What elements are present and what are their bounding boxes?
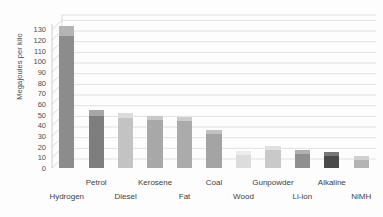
y-axis-tick-70: 70: [38, 89, 46, 98]
bar-gunpowder[interactable]: [265, 146, 280, 168]
category-label-kerosene: Kerosene: [138, 178, 172, 187]
bar-body: [236, 151, 251, 168]
y-axis-tick-10: 10: [38, 153, 46, 162]
bar-body: [89, 110, 104, 168]
category-label-li-ion: Li-ion: [293, 192, 313, 201]
category-label-alkaline: Alkaline: [318, 178, 346, 187]
bar-nimh[interactable]: [354, 156, 369, 168]
bar-top-cap: [89, 110, 104, 115]
bar-fat[interactable]: [177, 117, 192, 168]
bar-top-cap: [177, 117, 192, 122]
bar-petrol[interactable]: [89, 110, 104, 168]
y-axis-tick-60: 60: [38, 100, 46, 109]
bar-kerosene[interactable]: [147, 116, 162, 168]
bar-series: [52, 24, 376, 168]
y-axis-tick-0: 0: [42, 164, 46, 173]
y-axis-tick-130: 130: [33, 25, 46, 34]
category-label-hydrogen: Hydrogen: [49, 192, 84, 201]
bar-body: [265, 146, 280, 168]
y-axis-tick-30: 30: [38, 132, 46, 141]
y-axis-tick-100: 100: [33, 57, 46, 66]
y-axis-tick-50: 50: [38, 110, 46, 119]
y-axis-tick-80: 80: [38, 78, 46, 87]
bar-body: [118, 113, 133, 168]
bar-body: [59, 26, 74, 168]
bar-li-ion[interactable]: [295, 150, 310, 168]
bar-top-cap: [265, 146, 280, 150]
category-label-diesel: Diesel: [115, 192, 137, 201]
bar-top-cap: [295, 150, 310, 154]
x-axis-category-labels: HydrogenPetrolDieselKeroseneFatCoalWoodG…: [52, 168, 376, 214]
bar-top-cap: [324, 152, 339, 156]
y-axis-tick-120: 120: [33, 36, 46, 45]
bar-top-cap: [59, 26, 74, 36]
bar-top-cap: [118, 113, 133, 118]
y-axis-tick-90: 90: [38, 68, 46, 77]
category-label-nimh: NiMH: [351, 192, 371, 201]
category-label-wood: Wood: [233, 192, 254, 201]
bar-alkaline[interactable]: [324, 152, 339, 168]
bar-body: [324, 152, 339, 168]
y-axis-tick-labels: 0102030405060708090100110120130: [22, 24, 46, 168]
category-label-coal: Coal: [206, 178, 222, 187]
bar-body: [206, 130, 221, 168]
bar-body: [295, 150, 310, 168]
y-axis-tick-20: 20: [38, 142, 46, 151]
bar-top-cap: [354, 156, 369, 160]
bar-diesel[interactable]: [118, 113, 133, 168]
bar-wood[interactable]: [236, 151, 251, 168]
bar-top-cap: [147, 116, 162, 121]
y-axis-tick-110: 110: [34, 46, 46, 55]
category-label-fat: Fat: [179, 192, 191, 201]
category-label-petrol: Petrol: [86, 178, 107, 187]
bar-coal[interactable]: [206, 130, 221, 168]
category-label-gunpowder: Gunpowder: [252, 178, 293, 187]
bar-hydrogen[interactable]: [59, 26, 74, 168]
y-axis-tick-40: 40: [38, 121, 46, 130]
bar-top-cap: [236, 151, 251, 155]
bar-body: [354, 156, 369, 168]
bar-body: [177, 117, 192, 168]
bar-top-cap: [206, 130, 221, 134]
bar-chart: Megajoules per kilo 01020304050607080901…: [0, 0, 383, 217]
bar-body: [147, 116, 162, 168]
